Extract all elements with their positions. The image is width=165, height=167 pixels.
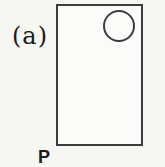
figure-panel: (a) P (0, 0, 165, 167)
point-label-p: P (38, 148, 50, 166)
panel-label: (a) (12, 24, 48, 48)
bubble-circle (103, 10, 135, 42)
